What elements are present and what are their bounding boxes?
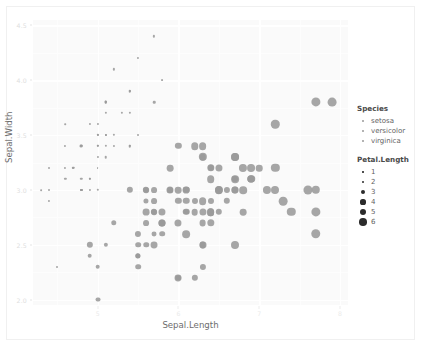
- legend-item-petal-length[interactable]: 2: [357, 177, 417, 187]
- y-axis-tick-mark: [30, 135, 32, 136]
- data-point: [240, 208, 247, 215]
- legend-dot-icon: [360, 199, 365, 204]
- data-point: [64, 145, 66, 147]
- y-axis-title: Sepal.Width: [4, 111, 14, 163]
- data-point: [167, 165, 174, 172]
- data-point: [143, 220, 149, 226]
- data-point: [111, 220, 116, 225]
- data-point: [113, 145, 115, 147]
- grid-line-horizontal: [33, 25, 348, 26]
- x-axis-tick-mark: [259, 306, 260, 309]
- legend-item-petal-length[interactable]: 1: [357, 167, 417, 177]
- data-point: [279, 197, 288, 206]
- data-point: [143, 187, 149, 193]
- data-point: [87, 253, 92, 258]
- data-point: [199, 241, 206, 248]
- legend-item-label: versicolor: [371, 127, 405, 135]
- data-point: [199, 142, 207, 150]
- legend-item-label: virginica: [371, 137, 401, 145]
- data-point: [151, 187, 157, 193]
- data-point: [215, 164, 222, 171]
- data-point: [183, 230, 191, 238]
- data-point: [95, 297, 100, 302]
- grid-line-vertical: [340, 20, 341, 305]
- data-point: [224, 187, 230, 193]
- x-axis-tick-label: 8: [338, 310, 342, 317]
- data-point: [256, 165, 263, 172]
- data-point: [135, 242, 141, 248]
- data-point: [271, 120, 279, 128]
- data-point: [231, 175, 239, 183]
- x-axis-tick-label: 7: [257, 310, 261, 317]
- legend-container: Species setosaversicolorvirginica Petal.…: [357, 104, 417, 227]
- legend-key-icon: [357, 130, 369, 132]
- legend-item-label: 2: [371, 178, 375, 186]
- data-point: [271, 164, 279, 172]
- data-point: [127, 187, 133, 193]
- legend-item-label: 3: [371, 188, 375, 196]
- data-point: [135, 231, 141, 237]
- x-axis-tick-label: 6: [176, 310, 180, 317]
- data-point: [113, 68, 115, 70]
- data-point: [105, 112, 107, 114]
- y-axis-tick-label: 4.5: [17, 22, 27, 29]
- data-point: [311, 98, 320, 107]
- data-point: [311, 186, 319, 194]
- y-axis-tick-mark: [30, 189, 32, 190]
- data-point: [88, 178, 90, 180]
- data-point: [192, 198, 198, 204]
- legend-dot-icon: [362, 120, 364, 122]
- data-point: [151, 241, 158, 248]
- legend-item-petal-length[interactable]: 6: [357, 217, 417, 227]
- legend-item-species[interactable]: versicolor: [357, 126, 417, 136]
- data-point: [191, 142, 198, 149]
- data-point: [271, 186, 279, 194]
- data-point: [175, 198, 181, 204]
- data-point: [167, 186, 174, 193]
- x-axis-tick-mark: [339, 306, 340, 309]
- data-point: [199, 208, 206, 215]
- data-point: [143, 242, 148, 247]
- data-point: [144, 198, 149, 203]
- legend-dot-icon: [361, 190, 365, 194]
- data-point: [183, 209, 190, 216]
- legend-item-label: 5: [371, 208, 375, 216]
- data-point: [48, 167, 50, 169]
- y-axis-tick-mark: [30, 25, 32, 26]
- legend-key-icon: [357, 209, 369, 215]
- grid-line-vertical-minor: [300, 20, 301, 305]
- data-point: [207, 208, 215, 216]
- grid-line-horizontal: [33, 245, 348, 246]
- data-point: [95, 264, 100, 269]
- data-point: [200, 264, 206, 270]
- data-point: [48, 200, 50, 202]
- legend-item-petal-length[interactable]: 3: [357, 187, 417, 197]
- x-axis-tick-mark: [178, 306, 179, 309]
- grid-line-horizontal-minor: [33, 108, 348, 109]
- data-point: [191, 274, 197, 280]
- legend-item-petal-length[interactable]: 5: [357, 207, 417, 217]
- legend-species-items: setosaversicolorvirginica: [357, 116, 417, 146]
- data-point: [64, 178, 66, 180]
- data-point: [263, 186, 271, 194]
- data-point: [231, 153, 239, 161]
- grid-line-vertical-minor: [57, 20, 58, 305]
- legend-item-species[interactable]: virginica: [357, 136, 417, 146]
- data-point: [159, 208, 166, 215]
- y-axis-tick-mark: [30, 244, 32, 245]
- legend-item-petal-length[interactable]: 4: [357, 197, 417, 207]
- data-point: [152, 231, 157, 236]
- data-point: [161, 79, 163, 81]
- legend-item-species[interactable]: setosa: [357, 116, 417, 126]
- legend-key-icon: [357, 218, 369, 226]
- data-point: [183, 186, 190, 193]
- grid-line-vertical-minor: [219, 20, 220, 305]
- data-point: [80, 145, 83, 148]
- grid-line-vertical: [98, 20, 99, 305]
- legend-key-icon: [357, 140, 369, 142]
- data-point: [208, 198, 214, 204]
- data-point: [175, 274, 182, 281]
- data-point: [239, 164, 247, 172]
- data-point: [151, 209, 157, 215]
- data-point: [104, 243, 108, 247]
